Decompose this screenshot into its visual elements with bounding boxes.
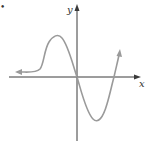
function-graph: • x y bbox=[0, 0, 147, 142]
curve-left-arrow-icon bbox=[15, 69, 22, 75]
y-axis-label: y bbox=[66, 4, 73, 15]
problem-marker: • bbox=[0, 2, 5, 12]
x-axis-label: x bbox=[139, 78, 145, 89]
y-axis-arrow-icon bbox=[75, 4, 80, 11]
curve-right-arrow-icon bbox=[117, 49, 123, 57]
function-curve bbox=[21, 35, 119, 120]
